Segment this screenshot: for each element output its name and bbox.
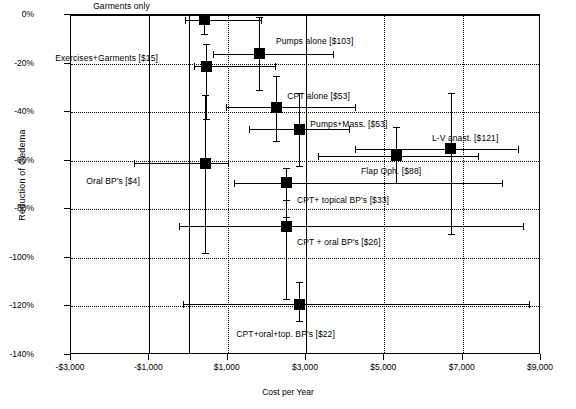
error-bar-cap xyxy=(296,166,303,167)
data-point-label: CPT alone [$53] xyxy=(287,91,350,101)
error-bar-cap xyxy=(523,223,524,230)
gridline-horizontal xyxy=(71,258,539,259)
data-point-label: CPT+ topical BP's [$33] xyxy=(297,195,389,205)
y-axis-title: Reduction of Oedema xyxy=(17,95,27,255)
error-bar-cap xyxy=(355,146,356,153)
y-tick-label: -20% xyxy=(0,58,34,68)
error-bar-cap xyxy=(296,282,303,283)
error-bar-cap xyxy=(318,153,319,160)
data-point-label: Pumps+Mass. [$53] xyxy=(310,119,387,129)
error-bar-cap xyxy=(355,104,356,111)
scatter-chart: Reduction of Oedema Cost per Year 0%-20%… xyxy=(0,0,576,409)
x-tick-label: -$1,000 xyxy=(108,362,188,372)
error-bar-vertical xyxy=(286,200,287,300)
data-point-marker xyxy=(294,299,305,310)
error-bar-cap xyxy=(502,180,503,187)
data-point-marker xyxy=(281,177,292,188)
data-point-label: Garments only xyxy=(93,1,150,11)
error-bar-cap xyxy=(518,146,519,153)
data-point-label: CPT + oral BP's [$26] xyxy=(297,237,381,247)
y-tick-label: -40% xyxy=(0,106,34,116)
gridline-vertical xyxy=(463,15,464,353)
error-bar-cap xyxy=(478,153,479,160)
y-tick-label: -140% xyxy=(0,349,34,359)
x-tick-mark xyxy=(70,354,71,360)
x-tick-label: $5,000 xyxy=(343,362,423,372)
data-point-marker xyxy=(391,150,402,161)
y-tick-label: -60% xyxy=(0,155,34,165)
data-point-label: Exercises+Garments [$15] xyxy=(55,53,158,63)
error-bar-cap xyxy=(203,119,210,120)
error-bar-cap xyxy=(448,93,455,94)
gridline-horizontal xyxy=(71,209,539,210)
x-axis-title: Cost per Year xyxy=(0,387,576,397)
x-tick-label: $9,000 xyxy=(500,362,576,372)
error-bar-cap xyxy=(201,34,208,35)
gridline-horizontal xyxy=(71,64,539,65)
error-bar-cap xyxy=(256,90,263,91)
axis-zero-line-vertical xyxy=(189,15,190,353)
error-bar-cap xyxy=(448,234,455,235)
error-bar-cap xyxy=(202,253,209,254)
y-tick-label: -100% xyxy=(0,252,34,262)
error-bar-cap xyxy=(183,301,184,308)
plot-area xyxy=(70,14,540,354)
error-bar-cap xyxy=(249,126,250,133)
error-bar-cap xyxy=(283,168,290,169)
error-bar-cap xyxy=(228,160,229,167)
error-bar-cap xyxy=(283,200,290,201)
error-bar-cap xyxy=(256,17,263,18)
gridline-horizontal xyxy=(71,306,539,307)
error-bar-cap xyxy=(134,160,135,167)
error-bar-cap xyxy=(203,44,210,45)
data-point-marker xyxy=(281,221,292,232)
error-bar-cap xyxy=(273,141,280,142)
x-tick-label: $3,000 xyxy=(265,362,345,372)
error-bar-cap xyxy=(273,76,280,77)
gridline-vertical-solid xyxy=(306,15,307,353)
data-point-marker xyxy=(201,61,212,72)
error-bar-horizontal xyxy=(179,226,524,227)
gridline-vertical-solid xyxy=(149,15,150,353)
axis-zero-line-horizontal xyxy=(71,15,539,16)
x-tick-label: $7,000 xyxy=(422,362,502,372)
gridline-horizontal xyxy=(71,161,539,162)
gridline-vertical xyxy=(384,15,385,353)
y-tick-label: -120% xyxy=(0,300,34,310)
data-point-label: Pumps alone [$103] xyxy=(276,36,353,46)
error-bar-cap xyxy=(234,180,235,187)
y-tick-label: -80% xyxy=(0,203,34,213)
data-point-marker xyxy=(294,124,305,135)
error-bar-horizontal xyxy=(226,107,355,108)
error-bar-cap xyxy=(393,127,400,128)
x-tick-mark xyxy=(462,354,463,360)
error-bar-horizontal xyxy=(234,183,502,184)
data-point-marker xyxy=(445,143,456,154)
gridline-horizontal xyxy=(71,112,539,113)
x-tick-mark xyxy=(227,354,228,360)
data-point-marker xyxy=(271,102,282,113)
x-tick-mark xyxy=(148,354,149,360)
error-bar-vertical xyxy=(451,93,452,234)
error-bar-vertical xyxy=(205,95,206,253)
x-tick-mark xyxy=(305,354,306,360)
error-bar-horizontal xyxy=(134,163,228,164)
error-bar-cap xyxy=(179,223,180,230)
error-bar-cap xyxy=(213,51,214,58)
x-tick-label: -$3,000 xyxy=(30,362,110,372)
data-point-label: L-V anast. [$121] xyxy=(432,133,498,143)
data-point-label: CPT+oral+top. BP's [$22] xyxy=(236,329,335,339)
error-bar-horizontal xyxy=(355,149,518,150)
error-bar-cap xyxy=(202,95,209,96)
x-tick-mark xyxy=(540,354,541,360)
error-bar-cap xyxy=(194,63,195,70)
error-bar-horizontal xyxy=(183,304,529,305)
error-bar-cap xyxy=(333,51,334,58)
error-bar-cap xyxy=(296,321,303,322)
y-tick-label: 0% xyxy=(0,9,34,19)
data-point-label: Flap Oph. [$88] xyxy=(361,166,421,176)
data-point-marker xyxy=(199,14,210,25)
x-tick-label: $1,000 xyxy=(187,362,267,372)
x-tick-mark xyxy=(383,354,384,360)
error-bar-horizontal xyxy=(185,20,261,21)
